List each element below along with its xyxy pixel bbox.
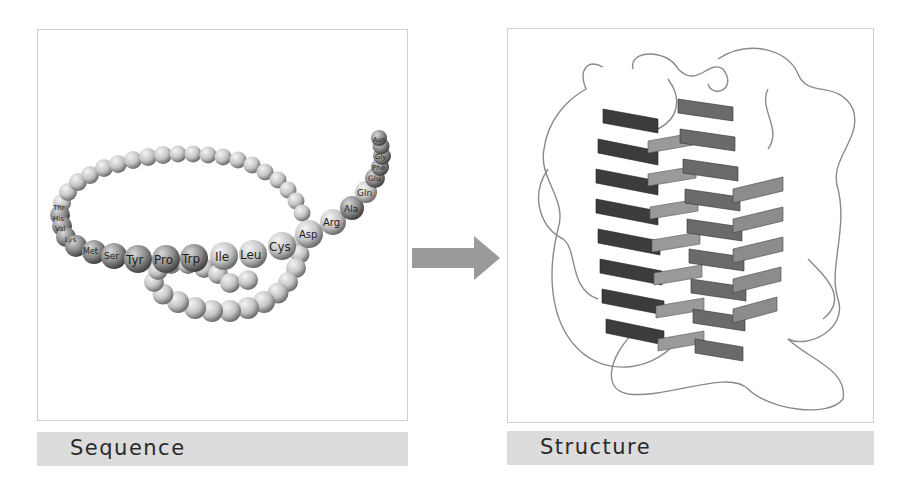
svg-text:Ile: Ile: [215, 250, 229, 264]
structure-panel: [507, 28, 874, 423]
folded-protein-illustration: [508, 29, 875, 424]
svg-text:Thr: Thr: [52, 204, 65, 212]
svg-text:Arg: Arg: [323, 217, 340, 228]
svg-text:Pro: Pro: [154, 253, 173, 267]
sequence-caption: Sequence: [37, 432, 408, 466]
svg-text:Lys: Lys: [65, 236, 76, 244]
svg-text:His: His: [53, 215, 64, 223]
svg-text:Gly: Gly: [375, 153, 387, 161]
helix-ribbons: [596, 99, 783, 361]
svg-text:Gln: Gln: [357, 188, 372, 198]
svg-text:Asp: Asp: [299, 229, 317, 240]
svg-text:Met: Met: [83, 247, 98, 256]
amino-acid-chain-illustration: Thr His Val Lys Met Ser Tyr Pro Trp Ile …: [38, 30, 409, 422]
svg-text:Val: Val: [55, 225, 66, 233]
svg-text:Leu: Leu: [240, 248, 261, 262]
svg-text:Tyr: Tyr: [125, 253, 144, 267]
svg-text:Ser: Ser: [104, 251, 119, 261]
svg-text:Glu: Glu: [368, 174, 381, 183]
structure-caption: Structure: [507, 431, 874, 465]
structure-caption-label: Structure: [540, 435, 651, 459]
sequence-panel: Thr His Val Lys Met Ser Tyr Pro Trp Ile …: [37, 29, 408, 421]
svg-text:Ala: Ala: [344, 204, 358, 214]
svg-text:Trp: Trp: [181, 252, 200, 266]
sequence-caption-label: Sequence: [70, 436, 186, 460]
svg-text:Asn: Asn: [373, 136, 385, 144]
svg-text:Phe: Phe: [372, 164, 385, 172]
svg-text:Cys: Cys: [269, 240, 291, 254]
right-arrow-icon: [412, 236, 500, 280]
